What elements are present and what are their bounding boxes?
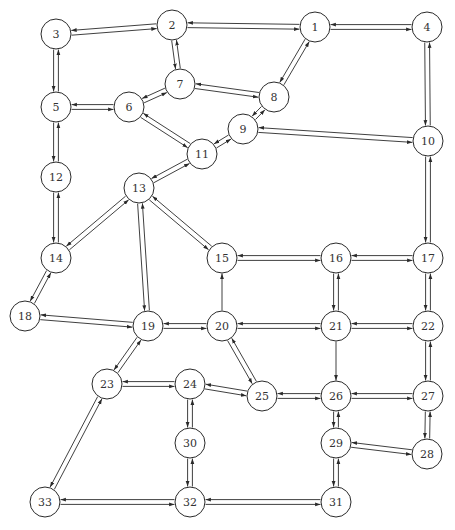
- edge-8-to-7: [196, 84, 259, 93]
- node-3: 3: [41, 19, 71, 49]
- node-25: 25: [247, 381, 277, 411]
- node-label: 32: [183, 496, 197, 509]
- node-label: 29: [329, 437, 343, 450]
- node-label: 13: [132, 182, 146, 195]
- node-label: 18: [18, 310, 32, 323]
- edge-8-to-1: [284, 42, 309, 85]
- edge-7-to-6: [142, 88, 165, 98]
- node-label: 24: [183, 378, 197, 391]
- node-31: 31: [321, 487, 351, 517]
- node-label: 26: [329, 390, 343, 403]
- node-28: 28: [412, 439, 442, 469]
- node-6: 6: [114, 92, 144, 122]
- node-14: 14: [41, 243, 71, 273]
- node-5: 5: [41, 92, 71, 122]
- node-1: 1: [300, 12, 330, 42]
- node-label: 10: [421, 135, 435, 148]
- node-2: 2: [157, 10, 187, 40]
- edge-33-to-23: [54, 399, 102, 490]
- node-30: 30: [175, 428, 205, 458]
- node-12: 12: [41, 162, 71, 192]
- edge-9-to-10: [258, 132, 412, 142]
- node-24: 24: [175, 369, 205, 399]
- node-21: 21: [321, 311, 351, 341]
- network-diagram: 1234567891011121314151617181920212223242…: [0, 0, 455, 530]
- node-label: 16: [329, 252, 343, 265]
- node-32: 32: [175, 487, 205, 517]
- node-label: 23: [100, 378, 114, 391]
- edge-1-to-2: [188, 23, 300, 25]
- node-label: 12: [49, 171, 63, 184]
- edge-4-to-10: [425, 43, 426, 126]
- edge-13-to-15: [149, 200, 208, 250]
- edge-2-to-7: [172, 41, 176, 69]
- edge-25-to-20: [232, 338, 257, 381]
- node-7: 7: [165, 69, 195, 99]
- node-label: 19: [141, 320, 155, 333]
- edge-10-to-9: [259, 128, 413, 138]
- edge-9-to-11: [214, 135, 229, 144]
- node-label: 28: [420, 448, 434, 461]
- node-label: 21: [329, 320, 343, 333]
- edge-14-to-13: [69, 200, 128, 250]
- node-29: 29: [321, 428, 351, 458]
- node-19: 19: [133, 311, 163, 341]
- node-label: 33: [38, 496, 52, 509]
- node-label: 3: [53, 28, 60, 41]
- node-13: 13: [124, 173, 154, 203]
- node-label: 1: [312, 21, 319, 34]
- edge-7-to-8: [195, 89, 258, 98]
- node-22: 22: [413, 311, 443, 341]
- edge-23-to-19: [118, 340, 141, 373]
- edge-23-to-33: [50, 397, 98, 488]
- node-label: 17: [421, 252, 435, 265]
- node-label: 5: [53, 101, 60, 114]
- edge-2-to-1: [187, 28, 299, 30]
- node-label: 14: [49, 252, 63, 265]
- node-label: 6: [126, 101, 133, 114]
- edge-11-to-6: [143, 113, 190, 143]
- node-11: 11: [187, 139, 217, 169]
- edge-1-to-8: [280, 39, 305, 82]
- nodes-layer: 1234567891011121314151617181920212223242…: [10, 10, 443, 517]
- node-label: 27: [421, 390, 435, 403]
- edge-6-to-11: [141, 117, 188, 147]
- edge-13-to-14: [66, 196, 125, 246]
- node-label: 7: [177, 78, 184, 91]
- node-23: 23: [92, 369, 122, 399]
- node-label: 8: [271, 91, 278, 104]
- node-label: 9: [240, 123, 247, 136]
- node-16: 16: [321, 243, 351, 273]
- edge-10-to-4: [430, 42, 431, 125]
- edge-11-to-13: [152, 159, 188, 178]
- node-8: 8: [259, 82, 289, 112]
- edge-7-to-2: [176, 40, 180, 68]
- node-9: 9: [228, 114, 258, 144]
- node-label: 2: [169, 19, 176, 32]
- node-27: 27: [413, 381, 443, 411]
- node-label: 30: [183, 437, 197, 450]
- edge-13-to-11: [154, 163, 190, 182]
- edge-19-to-23: [114, 337, 137, 370]
- node-18: 18: [10, 301, 40, 331]
- node-label: 4: [424, 21, 431, 34]
- node-label: 25: [255, 390, 269, 403]
- node-4: 4: [412, 12, 442, 42]
- node-label: 11: [195, 148, 209, 161]
- node-label: 22: [421, 320, 435, 333]
- node-20: 20: [207, 311, 237, 341]
- node-label: 15: [215, 252, 229, 265]
- edge-11-to-9: [216, 139, 231, 148]
- node-26: 26: [321, 381, 351, 411]
- node-17: 17: [413, 243, 443, 273]
- node-10: 10: [413, 126, 443, 156]
- edge-15-to-13: [152, 196, 211, 246]
- node-label: 20: [215, 320, 229, 333]
- edge-20-to-25: [228, 341, 253, 384]
- node-label: 31: [329, 496, 343, 509]
- node-33: 33: [30, 487, 60, 517]
- edge-6-to-7: [144, 93, 167, 103]
- node-15: 15: [207, 243, 237, 273]
